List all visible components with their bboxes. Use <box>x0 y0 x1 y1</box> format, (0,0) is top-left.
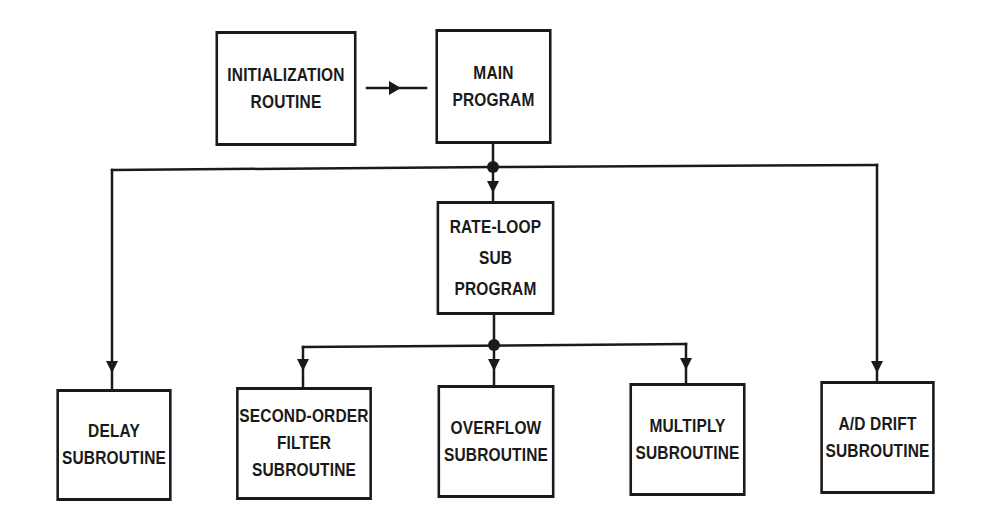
node-label-line: SUBROUTINE <box>635 440 739 467</box>
arrowhead-down-icon <box>680 358 692 370</box>
node-label-line: MAIN <box>473 60 513 87</box>
node-initialization-routine: INITIALIZATION ROUTINE <box>215 31 356 146</box>
arrowhead-down-icon <box>487 181 499 193</box>
junction-dot-top <box>487 161 499 173</box>
node-overflow-subroutine: OVERFLOW SUBROUTINE <box>438 385 555 498</box>
node-rate-loop-sub-program: RATE-LOOP SUB PROGRAM <box>437 201 555 315</box>
flowchart-diagram: INITIALIZATION ROUTINE MAIN PROGRAM RATE… <box>0 0 989 531</box>
node-second-order-filter-subroutine: SECOND-ORDER FILTER SUBROUTINE <box>236 387 372 500</box>
bus-top-right <box>493 165 877 167</box>
node-label-line: SUBROUTINE <box>825 438 929 465</box>
node-label-line: MULTIPLY <box>649 413 725 440</box>
node-label-line: INITIALIZATION <box>227 62 344 89</box>
junction-dot-bottom <box>488 339 500 351</box>
node-multiply-subroutine: MULTIPLY SUBROUTINE <box>629 383 745 496</box>
node-label-line: FILTER <box>277 430 331 457</box>
arrowhead-down-icon <box>871 361 883 373</box>
arrowhead-down-icon <box>106 361 118 373</box>
node-label-line: SECOND-ORDER <box>239 403 368 430</box>
node-label-line: RATE-LOOP <box>450 212 542 243</box>
node-delay-subroutine: DELAY SUBROUTINE <box>56 389 171 501</box>
node-label-line: OVERFLOW <box>451 415 542 442</box>
node-label-line: SUBROUTINE <box>62 445 166 472</box>
node-label-line: PROGRAM <box>452 87 534 114</box>
arrowhead-down-icon <box>297 359 309 371</box>
node-label-line: SUB <box>479 243 512 274</box>
node-label-line: SUBROUTINE <box>444 442 548 469</box>
node-label-line: DELAY <box>88 418 140 445</box>
node-label-line: PROGRAM <box>454 274 536 305</box>
node-label-line: A/D DRIFT <box>838 411 916 438</box>
bus-top-left <box>112 167 493 170</box>
arrowhead-down-icon <box>488 359 500 371</box>
node-ad-drift-subroutine: A/D DRIFT SUBROUTINE <box>820 381 934 494</box>
node-label-line: ROUTINE <box>251 89 322 116</box>
arrowhead-right-icon <box>389 81 401 95</box>
node-label-line: SUBROUTINE <box>252 457 356 484</box>
node-main-program: MAIN PROGRAM <box>435 29 551 144</box>
